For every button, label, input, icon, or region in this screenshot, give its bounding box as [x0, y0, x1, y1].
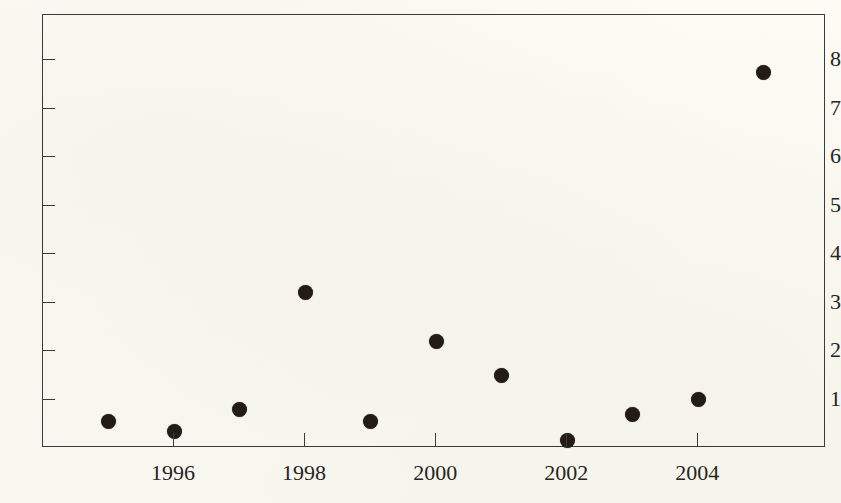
y-axis-tick-label: 3: [815, 291, 841, 313]
x-axis-tick-label: 2000: [390, 462, 480, 484]
y-axis-tick-label: 2: [815, 339, 841, 361]
y-axis-tick-mark: [42, 350, 55, 351]
x-axis-tick-label: 1998: [259, 462, 349, 484]
y-axis-tick-mark: [42, 205, 55, 206]
data-point: [625, 407, 640, 422]
y-axis-tick-label: 5: [815, 194, 841, 216]
y-axis-tick-label: 4: [815, 242, 841, 264]
plot-frame: [42, 14, 825, 447]
y-axis-tick-mark: [42, 108, 55, 109]
y-axis-tick-label: 8: [815, 48, 841, 70]
data-point: [691, 392, 706, 407]
data-point: [494, 368, 509, 383]
chart-page: 1234567819961998200020022004: [0, 0, 841, 503]
y-axis-tick-mark: [42, 253, 55, 254]
x-axis-tick-mark: [173, 433, 174, 447]
data-point: [363, 414, 378, 429]
x-axis-tick-mark: [304, 433, 305, 447]
y-axis-tick-label: 6: [815, 145, 841, 167]
data-point: [429, 334, 444, 349]
y-axis-tick-mark: [42, 59, 55, 60]
y-axis-tick-mark: [42, 156, 55, 157]
x-axis-tick-mark: [566, 433, 567, 447]
data-point: [560, 433, 575, 448]
x-axis-tick-mark: [435, 433, 436, 447]
data-point: [101, 414, 116, 429]
data-point: [167, 424, 182, 439]
data-point: [298, 285, 313, 300]
y-axis-tick-mark: [42, 302, 55, 303]
x-axis-tick-label: 2002: [521, 462, 611, 484]
data-point: [756, 65, 771, 80]
y-axis-tick-label: 1: [815, 388, 841, 410]
x-axis-tick-label: 1996: [128, 462, 218, 484]
data-point: [232, 402, 247, 417]
y-axis-tick-label: 7: [815, 97, 841, 119]
x-axis-tick-mark: [697, 433, 698, 447]
y-axis-tick-mark: [42, 399, 55, 400]
x-axis-tick-label: 2004: [652, 462, 742, 484]
plot-area: [43, 15, 826, 448]
